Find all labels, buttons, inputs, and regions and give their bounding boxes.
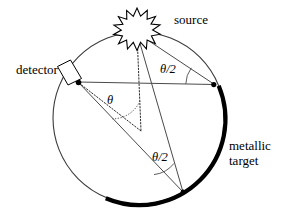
right-vertex-marker bbox=[211, 82, 216, 87]
angle-label-lower-half-theta: θ/2 bbox=[152, 150, 168, 164]
metallic-target-label-line2: target bbox=[229, 153, 259, 168]
detector-label: detector bbox=[16, 62, 59, 77]
angle-label-upper-half-theta: θ/2 bbox=[160, 62, 176, 76]
construction-line-detector-to-center bbox=[79, 83, 141, 131]
scattering-diagram-figure: source detector metallic target θ/2 θ/2 … bbox=[0, 0, 288, 221]
ray-detector-to-right-vertex bbox=[78, 82, 215, 85]
bottom-vertex-marker bbox=[181, 190, 186, 195]
angle-arc-center-theta bbox=[113, 101, 141, 119]
angle-label-center-theta: θ bbox=[107, 93, 113, 107]
metallic-target-label-line1: metallic bbox=[229, 138, 271, 153]
scattering-diagram-canvas: source detector metallic target θ/2 θ/2 … bbox=[0, 0, 288, 221]
source-label: source bbox=[174, 12, 208, 27]
metallic-target-arc bbox=[106, 86, 226, 205]
angle-arc-upper-half-theta bbox=[186, 68, 192, 84]
